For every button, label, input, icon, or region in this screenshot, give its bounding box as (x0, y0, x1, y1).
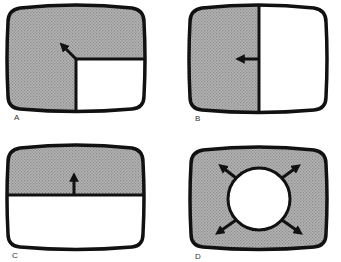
panel-a (0, 0, 170, 120)
panel-d (180, 140, 341, 260)
panel-label-b: B (195, 114, 200, 123)
panel-c (0, 140, 170, 250)
iris-circle (228, 168, 290, 230)
panel-label-c: C (12, 251, 18, 260)
panel-label-a: A (14, 113, 19, 122)
panel-b (180, 0, 327, 120)
panel-label-d: D (195, 252, 201, 261)
wipe-diagram-figure (0, 0, 341, 262)
